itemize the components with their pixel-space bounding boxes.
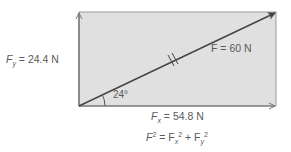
eq-plus-fy: + F — [182, 131, 200, 143]
fy-value: = 24.4 N — [16, 53, 59, 65]
f-value: F = 60 N — [211, 42, 252, 54]
angle-label: 24° — [113, 90, 128, 100]
pythagorean-equation: F2 = Fx2 + Fy2 — [146, 131, 208, 145]
eq-fx-sub: x — [175, 138, 179, 145]
force-diagram — [0, 0, 291, 152]
fy-label: Fy = 24.4 N — [6, 54, 59, 67]
resultant-force-label: F = 60 N — [211, 43, 252, 54]
eq-equals-fx: = F — [156, 131, 174, 143]
fx-label: Fx = 54.8 N — [151, 111, 204, 124]
angle-value: 24° — [113, 89, 128, 100]
fx-value: = 54.8 N — [161, 110, 204, 122]
eq-fy-sup: 2 — [204, 131, 208, 138]
eq-fy-sub: y — [201, 138, 205, 145]
